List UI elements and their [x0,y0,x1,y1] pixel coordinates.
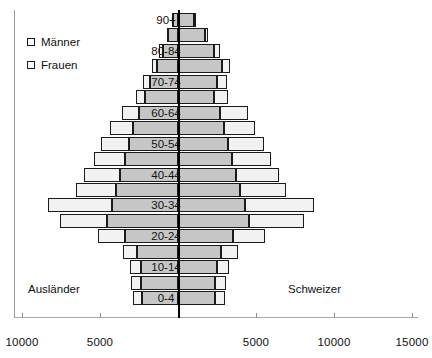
x-axis-tick [100,313,101,318]
pyramid-row [14,168,418,182]
bar-segment-maenner-schweizer [133,121,178,135]
square-outline-icon [27,38,35,46]
bar-segment-maenner-schweizer [157,59,178,73]
bar-segment-frauen-schweizer [178,214,249,228]
legend-item-maenner: Männer [27,36,80,48]
bar-segment-frauen-auslaender [214,90,228,104]
x-axis-tick [256,313,257,318]
bar-segment-maenner-auslaender [101,137,129,151]
bar-segment-maenner-schweizer [116,183,178,197]
chart-legend: Männer Frauen [27,36,80,82]
bar-segment-frauen-auslaender [220,106,248,120]
x-axis-tick-label: 5000 [243,336,269,348]
bar-segment-frauen-auslaender [233,229,266,243]
bar-segment-frauen-auslaender [221,245,238,259]
bar-segment-maenner-auslaender [131,276,141,290]
bar-segment-frauen-schweizer [178,276,215,290]
bar-segment-maenner-auslaender [143,75,150,89]
age-group-label: 50-54 [151,138,180,150]
bar-segment-maenner-auslaender [123,245,137,259]
caption-auslaender: Ausländer [28,283,80,295]
pyramid-row [14,152,418,166]
bar-segment-maenner-auslaender [84,168,121,182]
bar-segment-maenner-auslaender [110,121,133,135]
x-axis-tick [22,313,23,318]
bar-segment-maenner-schweizer [141,276,178,290]
bar-segment-maenner-schweizer [168,28,178,42]
bar-segment-frauen-schweizer [178,168,236,182]
square-outline-icon [27,61,35,69]
bar-segment-frauen-auslaender [245,198,314,212]
bar-segment-frauen-auslaender [228,137,264,151]
legend-item-frauen: Frauen [27,59,80,71]
pyramid-row [14,13,418,27]
bar-segment-maenner-auslaender [48,198,112,212]
bar-segment-maenner-auslaender [136,90,146,104]
bar-segment-maenner-auslaender [98,229,125,243]
bar-segment-frauen-auslaender [224,121,255,135]
bar-segment-maenner-schweizer [145,90,178,104]
pyramid-row [14,183,418,197]
x-axis-tick [412,313,413,318]
pyramid-row [14,121,418,135]
bar-segment-frauen-schweizer [178,90,214,104]
age-group-label: 70-74 [151,76,180,88]
pyramid-row [14,214,418,228]
x-axis-tick-label: 10000 [6,336,39,348]
bar-segment-maenner-auslaender [133,291,142,305]
age-group-label: 60-64 [151,107,180,119]
pyramid-row [14,245,418,259]
age-group-label: 80-84 [151,45,180,57]
pyramid-row [14,106,418,120]
bar-segment-frauen-auslaender [205,28,208,42]
age-group-label: 0-4 [158,292,175,304]
bar-segment-frauen-schweizer [178,291,215,305]
bar-segment-frauen-schweizer [178,183,240,197]
bar-segment-frauen-auslaender [215,291,225,305]
bar-segment-maenner-auslaender [130,260,141,274]
bar-segment-frauen-auslaender [240,183,287,197]
pyramid-row [14,137,418,151]
bar-segment-frauen-schweizer [178,28,205,42]
bar-segment-frauen-auslaender [215,276,226,290]
bar-segment-frauen-auslaender [214,44,220,58]
bar-segment-frauen-schweizer [178,137,228,151]
pyramid-row [14,260,418,274]
bar-segment-frauen-auslaender [222,59,231,73]
bar-segment-maenner-schweizer [107,214,178,228]
bar-segment-frauen-schweizer [178,106,220,120]
x-axis-line [14,317,418,318]
bar-segment-frauen-auslaender [217,75,227,89]
bar-segment-frauen-schweizer [178,198,245,212]
bar-segment-frauen-schweizer [178,260,217,274]
bar-segment-maenner-auslaender [94,152,125,166]
bar-segment-maenner-schweizer [125,152,178,166]
x-axis-tick-label: 5000 [87,336,113,348]
bar-segment-maenner-auslaender [60,214,107,228]
age-group-label: 40-44 [151,169,180,181]
bar-segment-frauen-auslaender [232,152,271,166]
legend-item-label: Frauen [41,59,77,71]
age-group-label: 30-34 [151,199,180,211]
bar-segment-frauen-auslaender [217,260,229,274]
pyramid-row [14,90,418,104]
bar-segment-frauen-auslaender [236,168,279,182]
bar-segment-frauen-schweizer [178,229,233,243]
legend-item-label: Männer [41,36,80,48]
pyramid-row [14,198,418,212]
caption-schweizer: Schweizer [288,283,341,295]
bar-segment-frauen-schweizer [178,75,217,89]
bar-segment-maenner-auslaender [76,183,117,197]
bar-segment-frauen-schweizer [178,152,232,166]
age-group-label: 90+ [156,14,176,26]
population-pyramid-chart: Männer Frauen Ausländer Schweizer 100005… [0,0,432,358]
bar-segment-frauen-schweizer [178,13,194,27]
bar-segment-frauen-auslaender [194,13,196,27]
age-group-label: 20-24 [151,230,180,242]
bar-segment-frauen-schweizer [178,245,221,259]
x-axis-tick-label: 15000 [396,336,429,348]
bar-segment-frauen-schweizer [178,59,222,73]
bar-segment-frauen-schweizer [178,121,224,135]
pyramid-row [14,229,418,243]
bar-segment-maenner-schweizer [137,245,178,259]
